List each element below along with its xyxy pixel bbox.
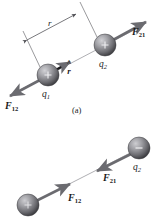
force-subscript: 21 xyxy=(110,177,117,184)
force-letter: F xyxy=(103,172,110,183)
force-subscript: 12 xyxy=(12,105,19,112)
panel-b-graphics xyxy=(17,137,150,216)
charge-sphere-q1-b xyxy=(17,194,39,216)
panel-a-graphics xyxy=(10,2,146,96)
charge-subscript: 2 xyxy=(138,166,141,173)
charge-sphere-q2-a xyxy=(94,34,116,56)
charge-label-q1-a: q1 xyxy=(42,90,50,100)
force-arrow-f12-a xyxy=(10,80,40,96)
force-subscript: 12 xyxy=(75,197,82,204)
charge-label-q2-b: q2 xyxy=(133,163,141,173)
force-label-f21-b: F21 xyxy=(103,173,117,183)
panel-caption-a: (a) xyxy=(72,106,81,115)
charge-subscript: 1 xyxy=(47,93,50,100)
distance-label-r: r xyxy=(48,19,52,28)
unit-vector-label-rhat: ^ r xyxy=(63,62,75,76)
force-subscript: 21 xyxy=(139,31,146,38)
force-arrow-f21-b xyxy=(97,154,131,171)
charge-sphere-q1-a xyxy=(37,64,59,86)
force-letter: F xyxy=(68,192,75,203)
charge-sphere-q2-b xyxy=(128,137,150,159)
force-letter: F xyxy=(5,100,12,111)
dimension-extension-lines xyxy=(23,2,97,67)
force-label-f12-a: F12 xyxy=(5,101,19,111)
unit-vector-letter: r xyxy=(67,66,71,76)
force-letter: F xyxy=(132,26,139,37)
physics-figure: r ^ r q1 q2 F12 F21 (a) q2 F21 F12 xyxy=(0,0,163,223)
force-arrow-f12-b xyxy=(36,184,70,201)
force-label-f21-a: F21 xyxy=(132,27,146,37)
force-label-f12-b: F12 xyxy=(68,193,82,203)
charge-label-q2-a: q2 xyxy=(99,60,107,70)
charge-subscript: 2 xyxy=(104,63,107,70)
